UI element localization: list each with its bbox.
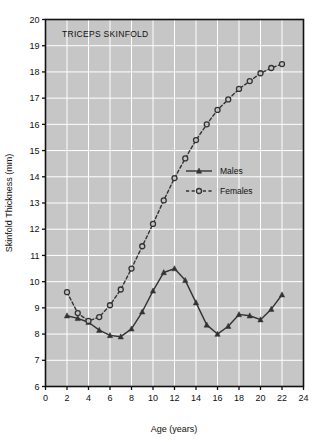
- panel-title: TRICEPS SKINFOLD: [62, 29, 149, 39]
- x-axis-tick-label: 4: [86, 393, 91, 403]
- y-axis-tick-label: 8: [34, 329, 39, 339]
- data-point-marker: [65, 290, 70, 295]
- legend-label-males: Males: [220, 166, 243, 176]
- y-axis-tick-label: 6: [34, 382, 39, 392]
- data-point-marker: [86, 318, 91, 323]
- data-point-marker: [75, 311, 80, 316]
- y-axis-tick-label: 12: [29, 224, 39, 234]
- x-axis-tick-label: 0: [43, 393, 48, 403]
- data-point-marker: [247, 79, 252, 84]
- data-point-marker: [140, 244, 145, 249]
- x-axis-tick-label: 2: [64, 393, 69, 403]
- x-axis-tick-label: 12: [169, 393, 179, 403]
- chart-figure: 6789101112131415161718192002468101214161…: [0, 0, 319, 442]
- y-axis-title: Skinfold Thickness (mm): [4, 154, 14, 252]
- y-axis-tick-label: 14: [29, 172, 39, 182]
- data-point-marker: [118, 287, 123, 292]
- data-point-marker: [237, 86, 242, 91]
- data-point-marker: [172, 176, 177, 181]
- triceps-skinfold-chart: 6789101112131415161718192002468101214161…: [0, 0, 319, 442]
- data-point-marker: [183, 156, 188, 161]
- data-point-marker: [161, 198, 166, 203]
- x-axis-tick-label: 10: [148, 393, 158, 403]
- data-point-marker: [151, 221, 156, 226]
- y-axis-tick-label: 15: [29, 146, 39, 156]
- x-axis-tick-label: 16: [212, 393, 222, 403]
- x-axis-tick-label: 24: [298, 393, 308, 403]
- y-axis-tick-label: 11: [30, 251, 39, 261]
- data-point-marker: [226, 97, 231, 102]
- y-axis-tick-label: 9: [34, 303, 39, 313]
- y-axis-tick-label: 13: [29, 198, 39, 208]
- x-axis-tick-label: 22: [277, 393, 287, 403]
- legend-label-females: Females: [220, 186, 253, 196]
- data-point-marker: [194, 138, 199, 143]
- data-point-marker: [258, 71, 263, 76]
- x-axis-tick-label: 18: [234, 393, 244, 403]
- x-axis-tick-label: 14: [191, 393, 201, 403]
- y-axis-tick-label: 20: [29, 15, 39, 25]
- data-point-marker: [204, 122, 209, 127]
- x-axis-tick-label: 8: [129, 393, 134, 403]
- y-axis-tick-label: 19: [29, 41, 39, 51]
- data-point-marker: [269, 65, 274, 70]
- data-point-marker: [215, 107, 220, 112]
- y-axis-tick-label: 17: [29, 93, 39, 103]
- y-axis-tick-label: 18: [29, 67, 39, 77]
- x-axis-tick-label: 6: [107, 393, 112, 403]
- data-point-marker: [108, 303, 113, 308]
- data-point-marker: [129, 266, 134, 271]
- data-point-marker: [97, 315, 102, 320]
- x-axis-title: Age (years): [151, 424, 198, 434]
- x-axis-tick-label: 20: [255, 393, 265, 403]
- y-axis-tick-label: 10: [29, 277, 39, 287]
- data-point-marker: [197, 189, 202, 194]
- y-axis-tick-label: 16: [29, 120, 39, 130]
- data-point-marker: [280, 62, 285, 67]
- y-axis-tick-label: 7: [34, 355, 39, 365]
